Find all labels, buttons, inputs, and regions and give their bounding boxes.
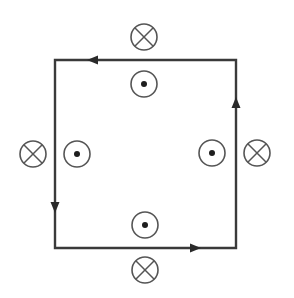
field-into-page-icon-bottom-outside [132, 257, 158, 283]
arrow-up-icon [232, 97, 241, 108]
field-out-of-page-icon-top-inside [131, 71, 157, 97]
field-into-page-icon-left-outside [20, 141, 46, 167]
field-out-of-page-icon-left-inside [64, 141, 90, 167]
field-out-of-page-icon-right-inside [199, 140, 225, 166]
field-symbols [20, 24, 270, 283]
arrow-down-icon [51, 202, 60, 213]
field-out-of-page-icon-bottom-inside [132, 212, 158, 238]
current-loop-diagram [0, 0, 294, 298]
arrow-left-icon [87, 56, 98, 65]
field-into-page-icon-top-outside [131, 24, 157, 50]
field-into-page-icon-right-outside [244, 140, 270, 166]
arrow-right-icon [190, 244, 201, 253]
